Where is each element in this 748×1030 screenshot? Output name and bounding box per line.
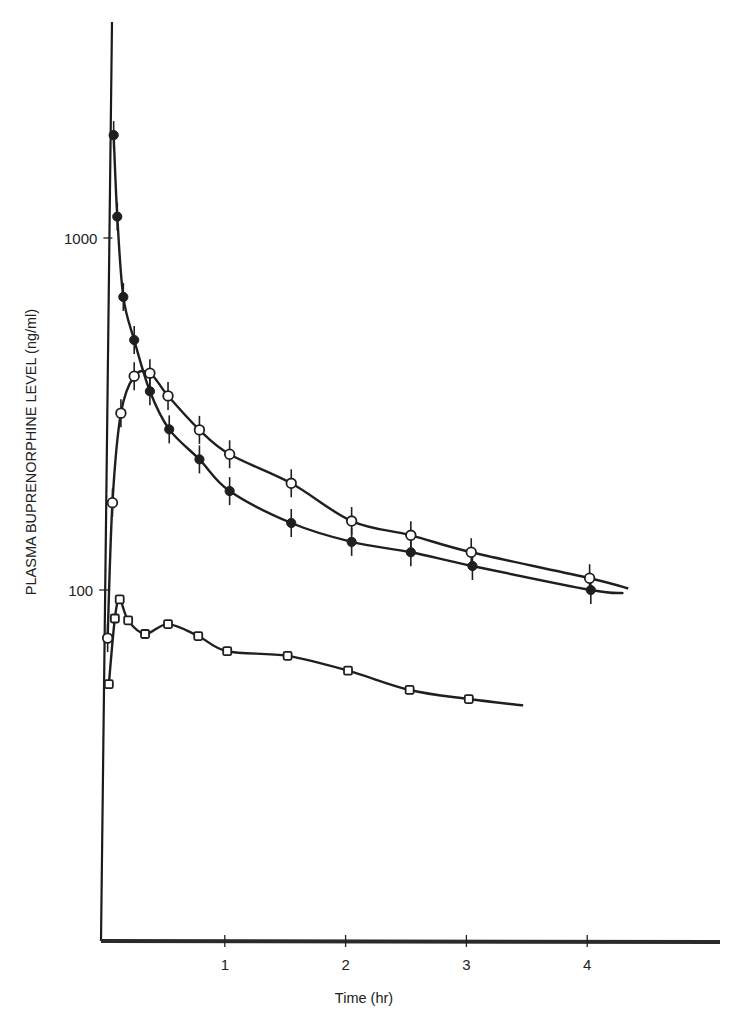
data-point-filled-circle (109, 131, 118, 140)
data-point-open-circle (145, 368, 155, 378)
fitted-curves (108, 135, 629, 705)
data-point-open-circle (466, 547, 476, 557)
data-point-filled-circle (130, 335, 139, 344)
y-axis-line (101, 22, 112, 941)
data-point-open-circle (103, 633, 113, 643)
data-point-open-circle (163, 391, 173, 401)
y-axis-title: PLASMA BUPRENORPHINE LEVEL (ng/ml) (23, 309, 39, 595)
x-tick-label: 4 (583, 956, 591, 973)
fitted-curve (108, 371, 629, 638)
data-point-open-circle (108, 498, 118, 508)
data-point-open-square (124, 616, 132, 624)
data-point-filled-circle (225, 486, 234, 495)
data-point-filled-circle (586, 585, 595, 594)
data-point-open-square (344, 667, 352, 675)
data-point-open-circle (195, 425, 205, 435)
x-axis-line (101, 941, 720, 942)
data-point-open-circle (286, 478, 296, 488)
data-point-filled-circle (113, 212, 122, 221)
data-point-filled-circle (468, 561, 477, 570)
data-point-open-square (194, 632, 202, 640)
data-point-open-circle (116, 408, 126, 418)
axes (101, 22, 720, 942)
data-point-open-square (284, 652, 292, 660)
data-point-open-square (141, 630, 149, 638)
data-point-filled-circle (145, 387, 154, 396)
x-tick-label: 3 (462, 956, 470, 973)
data-point-open-square (406, 686, 414, 694)
data-point-open-square (164, 620, 172, 628)
data-point-filled-circle (195, 455, 204, 464)
data-point-open-square (116, 595, 124, 603)
x-tick-label: 2 (341, 956, 349, 973)
x-tick-label: 1 (221, 956, 229, 973)
data-point-open-square (465, 695, 473, 703)
fitted-curve (109, 599, 523, 705)
data-markers (103, 121, 596, 703)
data-point-filled-circle (165, 425, 174, 434)
y-tick-label: 1000 (64, 230, 97, 247)
data-point-open-square (111, 614, 119, 622)
data-point-open-circle (347, 516, 357, 526)
data-point-open-circle (585, 573, 595, 583)
data-point-open-square (105, 680, 113, 688)
x-axis-title: Time (hr) (335, 990, 393, 1006)
buprenorphine-chart: 1234 1001000 Time (hr) PLASMA BUPRENORPH… (0, 0, 748, 1030)
data-point-filled-circle (347, 537, 356, 546)
data-point-filled-circle (119, 292, 128, 301)
data-point-open-circle (225, 449, 235, 459)
data-point-open-circle (129, 371, 139, 381)
y-tick-label: 100 (68, 582, 93, 599)
fitted-curve (114, 135, 624, 593)
data-point-open-circle (406, 531, 416, 541)
data-point-open-square (223, 647, 231, 655)
data-point-filled-circle (287, 518, 296, 527)
